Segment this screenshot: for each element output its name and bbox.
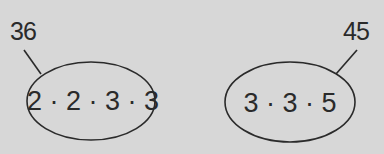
right-factorization: 3 · 3 · 5 (225, 90, 355, 117)
right-pointer-line (336, 50, 357, 74)
left-factorization: 2 · 2 · 3 · 3 (27, 88, 155, 115)
left-number-label: 36 (10, 19, 36, 44)
right-number-label: 45 (343, 19, 369, 44)
left-pointer-line (24, 50, 41, 74)
diagram-shapes (0, 0, 384, 154)
